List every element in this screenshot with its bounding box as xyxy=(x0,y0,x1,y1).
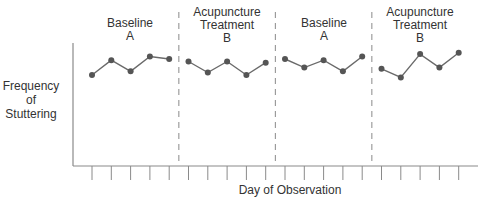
data-point-marker xyxy=(89,72,95,78)
phase-label-line: B xyxy=(179,32,275,45)
data-point-marker xyxy=(108,57,114,63)
data-point-marker xyxy=(398,74,404,80)
phase-label-line: A xyxy=(82,30,178,43)
phase-label-line: A xyxy=(276,30,372,43)
phase-label-treatment-b-1: Acupuncture Treatment B xyxy=(179,6,275,45)
data-point-marker xyxy=(224,58,230,64)
phase-label-baseline-a-2: Baseline A xyxy=(276,17,372,43)
data-point-marker xyxy=(340,68,346,74)
data-point-marker xyxy=(205,70,211,76)
data-point-marker xyxy=(186,58,192,64)
phase-label-baseline-a-1: Baseline A xyxy=(82,17,178,43)
data-point-marker xyxy=(359,54,365,60)
x-axis-label: Day of Observation xyxy=(200,183,380,197)
data-point-marker xyxy=(263,60,269,66)
y-axis-label-line: Stuttering xyxy=(0,107,62,121)
data-point-marker xyxy=(128,68,134,74)
data-point-marker xyxy=(166,56,172,62)
data-point-marker xyxy=(321,57,327,63)
data-point-marker xyxy=(301,65,307,71)
phase-label-treatment-b-2: Acupuncture Treatment B xyxy=(372,6,468,45)
data-point-marker xyxy=(417,51,423,57)
y-axis-label-line: of xyxy=(0,93,62,107)
y-axis-label-line: Frequency xyxy=(0,79,62,93)
data-point-marker xyxy=(282,56,288,62)
data-point-marker xyxy=(436,65,442,71)
data-point-marker xyxy=(243,72,249,78)
phase-label-line: B xyxy=(372,32,468,45)
data-point-marker xyxy=(456,50,462,56)
data-point-marker xyxy=(379,66,385,72)
data-point-marker xyxy=(147,54,153,60)
y-axis-label: Frequency of Stuttering xyxy=(0,79,62,121)
